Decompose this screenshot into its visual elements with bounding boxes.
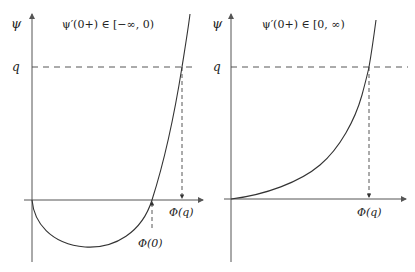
left-psi-curve	[32, 14, 190, 247]
diagram-canvas: ψ q ψ′(0+) ∈ [−∞, 0) Φ(q) Φ(0) ψ q ψ′(0+…	[0, 0, 415, 272]
left-phi-0-label: Φ(0)	[138, 237, 163, 250]
left-panel-title: ψ′(0+) ∈ [−∞, 0)	[62, 18, 154, 31]
right-psi-curve	[231, 20, 376, 199]
left-panel: ψ q ψ′(0+) ∈ [−∞, 0) Φ(q) Φ(0)	[11, 14, 203, 262]
right-phi-q-label: Φ(q)	[357, 206, 382, 219]
right-panel: ψ q ψ′(0+) ∈ [0, ∞) Φ(q)	[212, 14, 408, 262]
left-psi-label: ψ	[11, 16, 22, 31]
right-psi-label: ψ	[212, 16, 223, 31]
left-q-label: q	[12, 60, 20, 74]
left-phi-q-label: Φ(q)	[169, 206, 194, 219]
right-panel-title: ψ′(0+) ∈ [0, ∞)	[262, 18, 345, 31]
right-q-label: q	[213, 60, 221, 74]
